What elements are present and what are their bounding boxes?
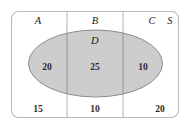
label-set-c: C	[148, 16, 155, 27]
label-set-d: D	[91, 36, 99, 47]
label-universal-set-s: S	[167, 16, 172, 27]
value-b-and-d: 25	[90, 63, 100, 73]
value-a-only: 15	[33, 105, 43, 115]
value-b-only: 10	[90, 105, 100, 115]
value-a-and-d: 20	[42, 63, 52, 73]
value-c-and-d: 10	[138, 63, 148, 73]
venn-diagram-figure: A B C S D 20 25 10 15 10 20	[0, 0, 190, 129]
label-set-a: A	[35, 16, 42, 27]
label-set-b: B	[92, 16, 99, 27]
value-c-only: 20	[155, 105, 165, 115]
